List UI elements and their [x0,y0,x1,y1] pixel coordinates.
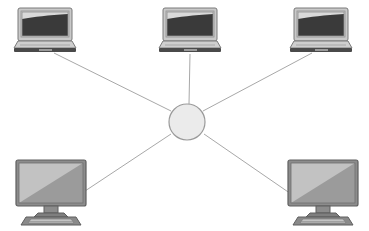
link-hub-laptop-top-center [189,54,190,104]
hub-circle[interactable] [169,104,205,140]
link-hub-laptop-top-right [203,53,312,111]
keyboard-keys [28,219,74,223]
link-hub-laptop-top-left [54,53,171,111]
laptop-top-left[interactable] [14,8,76,52]
central-hub[interactable] [169,104,205,140]
monitor-stand-neck [44,206,58,213]
monitor-stand-base [34,213,68,217]
keyboard-keys [300,219,346,223]
link-hub-desktop-bottom-right [204,134,294,196]
laptop-base [290,41,352,48]
laptop-base [159,41,221,48]
laptop-top-center[interactable] [159,8,221,52]
link-hub-desktop-bottom-left [79,134,171,195]
laptop-trackpad [184,49,197,51]
laptop-top-right[interactable] [290,8,352,52]
network-topology-svg [0,0,369,231]
monitor-stand-base [306,213,340,217]
monitor-stand-neck [316,206,330,213]
desktop-bottom-left[interactable] [16,160,86,225]
laptop-trackpad [39,49,52,51]
network-diagram-canvas: Star network topology [0,0,369,231]
laptop-base [14,41,76,48]
laptop-trackpad [315,49,328,51]
desktop-bottom-right[interactable] [288,160,358,225]
